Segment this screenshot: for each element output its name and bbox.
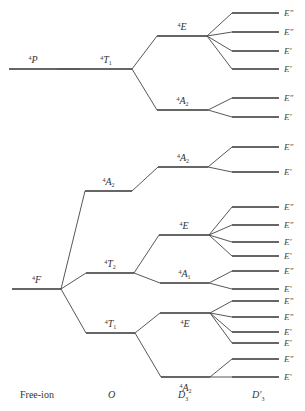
connector — [135, 333, 161, 377]
D3prime-label: E′ — [283, 338, 292, 348]
D3prime-label: E″ — [283, 312, 293, 322]
connector — [210, 359, 232, 377]
D3prime-label: E′ — [283, 284, 292, 294]
axis-label-D3prime: D′3 — [252, 389, 264, 402]
term-labels: 4P4F4T14A24T24T14E4A24A24E4A14E4A2E″E″E′… — [28, 8, 293, 394]
connector — [209, 283, 232, 289]
axis-label-D3-sub: 3 — [185, 396, 188, 402]
connector — [134, 273, 160, 283]
connector — [209, 207, 232, 235]
D3prime-label: E″ — [283, 142, 293, 152]
term-label-A1: 4A1 — [178, 268, 190, 280]
D3prime-label: E″ — [283, 266, 293, 276]
connector — [208, 110, 232, 117]
D3prime-label: E″ — [283, 27, 293, 37]
axis-label-D3prime-main: D′ — [252, 389, 261, 400]
connector — [207, 36, 232, 51]
axis-label-D3prime-sub: 3 — [261, 396, 264, 402]
D3prime-label: E′ — [283, 327, 292, 337]
connector — [209, 271, 232, 283]
connector — [210, 313, 232, 343]
connector — [132, 167, 158, 191]
D3prime-label: E′ — [283, 251, 292, 261]
D3prime-label: E′ — [283, 237, 292, 247]
term-label-4T1a: 4T1 — [100, 54, 112, 66]
axis-label-O: O — [108, 389, 115, 400]
term-label-A2b: 4A2 — [177, 152, 189, 164]
connector — [207, 36, 232, 69]
D3prime-label: E″ — [283, 220, 293, 230]
connector-lines — [57, 13, 232, 377]
connector — [208, 167, 232, 172]
connector — [208, 147, 232, 167]
term-label-4T2: 4T2 — [104, 258, 116, 270]
D3prime-label: E′ — [283, 46, 292, 56]
connector — [210, 313, 232, 332]
D3prime-label: E″ — [283, 296, 293, 306]
term-label-4T1b: 4T1 — [105, 318, 117, 330]
term-label-4F: 4F — [32, 274, 42, 285]
connector — [210, 301, 232, 313]
D3prime-label: E″ — [283, 8, 293, 18]
connector — [132, 36, 157, 69]
axis-label-free-ion: Free-ion — [20, 389, 54, 400]
level-lines — [9, 13, 279, 377]
connector — [132, 69, 157, 110]
term-label-E2: 4E — [179, 220, 188, 231]
connector — [209, 225, 232, 235]
D3prime-label: E′ — [283, 372, 292, 382]
term-label-4P: 4P — [28, 54, 37, 65]
connector — [61, 191, 85, 289]
D3prime-label: E″ — [283, 202, 293, 212]
axis-label-D3: D3 — [178, 389, 188, 402]
term-label-E3: 4E — [180, 318, 189, 329]
connector — [61, 289, 86, 333]
D3prime-label: E″ — [283, 354, 293, 364]
connector — [135, 313, 160, 333]
term-label-E1: 4E — [177, 21, 186, 32]
D3prime-label: E′ — [283, 64, 292, 74]
term-label-4A2o: 4A2 — [102, 176, 114, 188]
D3prime-label: E′ — [283, 112, 292, 122]
term-label-A2a: 4A2 — [176, 95, 188, 107]
connector — [134, 235, 159, 273]
D3prime-label: E′ — [283, 167, 292, 177]
energy-level-diagram: 4P4F4T14A24T24T14E4A24A24E4A14E4A2E″E″E′… — [0, 0, 305, 411]
D3prime-label: E″ — [283, 93, 293, 103]
connector — [208, 98, 232, 110]
